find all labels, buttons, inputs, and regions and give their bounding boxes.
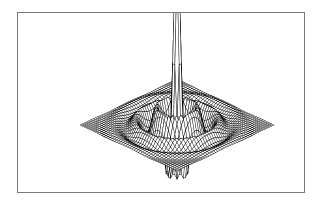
figure-root: 3D wireframe mesh surface plot of a radi… [0, 0, 324, 211]
wireframe-surface-plot [0, 0, 324, 211]
